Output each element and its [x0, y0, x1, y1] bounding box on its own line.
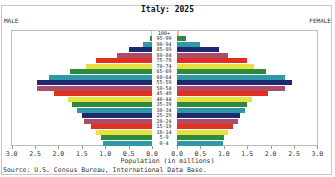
- male-bar: [77, 108, 152, 113]
- male-bar: [96, 58, 152, 63]
- x-tick: [224, 146, 225, 149]
- male-bar: [143, 42, 152, 47]
- male-bar: [82, 113, 152, 118]
- x-tick: [200, 146, 201, 149]
- x-tick: [294, 146, 295, 149]
- male-bar: [96, 130, 152, 135]
- age-group-label: 0-4: [152, 141, 176, 147]
- female-bar: [177, 75, 285, 80]
- female-bar: [177, 135, 224, 140]
- chart-title: Italy: 2025: [0, 5, 335, 14]
- male-bar: [86, 64, 152, 69]
- female-bar: [177, 91, 268, 96]
- male-bar: [84, 119, 152, 124]
- female-bar: [177, 97, 252, 102]
- female-bar: [177, 86, 285, 91]
- female-bar: [177, 42, 200, 47]
- male-bar: [129, 47, 152, 52]
- male-bar: [101, 135, 152, 140]
- male-bar: [37, 86, 152, 91]
- x-tick: [177, 146, 178, 149]
- male-bar: [72, 102, 152, 107]
- female-bar: [177, 119, 238, 124]
- male-label: MALE: [4, 17, 18, 24]
- male-bar: [49, 75, 152, 80]
- female-bar: [177, 31, 179, 36]
- female-bar: [177, 130, 228, 135]
- male-bar: [37, 80, 152, 85]
- female-bar: [177, 58, 247, 63]
- x-tick: [271, 146, 272, 149]
- female-bar: [177, 64, 254, 69]
- x-tick: [317, 146, 318, 149]
- female-bar: [177, 108, 245, 113]
- male-bar: [68, 97, 152, 102]
- male-bar: [103, 141, 152, 146]
- male-bar: [70, 69, 152, 74]
- female-bar: [177, 102, 247, 107]
- female-bar: [177, 36, 186, 41]
- female-label: FEMALE: [309, 17, 331, 24]
- female-bar: [177, 141, 223, 146]
- female-bar: [177, 124, 233, 129]
- male-bar: [54, 91, 152, 96]
- x-tick: [35, 146, 36, 149]
- female-bar: [177, 69, 266, 74]
- female-bar: [177, 47, 219, 52]
- x-tick: [105, 146, 106, 149]
- x-tick: [58, 146, 59, 149]
- female-bar: [177, 53, 228, 58]
- female-bar: [177, 113, 240, 118]
- x-tick: [129, 146, 130, 149]
- female-bar: [177, 80, 292, 85]
- x-tick: [152, 146, 153, 149]
- x-tick: [12, 146, 13, 149]
- x-tick: [247, 146, 248, 149]
- male-bar: [91, 124, 152, 129]
- x-tick: [82, 146, 83, 149]
- x-axis-label: Population (in millions): [0, 157, 335, 165]
- source-note: Source: U.S. Census Bureau, Internationa…: [3, 166, 207, 174]
- male-bar: [117, 53, 152, 58]
